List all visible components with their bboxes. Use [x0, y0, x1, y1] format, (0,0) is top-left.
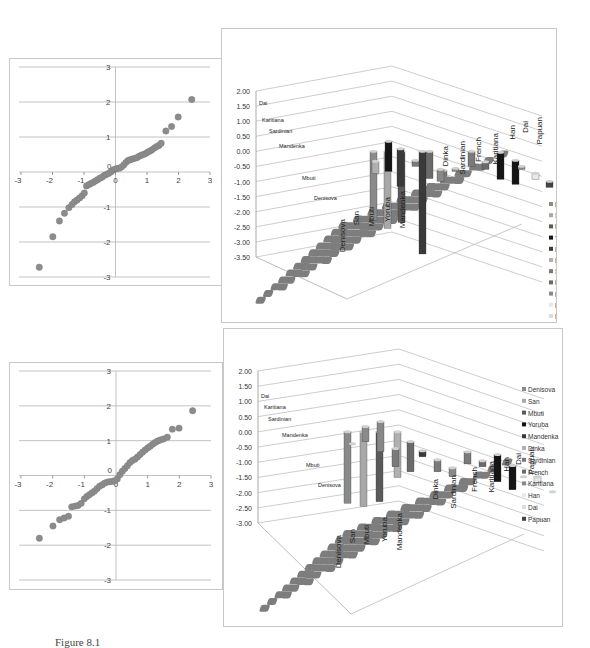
z-tick-label: -1.00: [236, 459, 252, 466]
z-tick-label: 1.00: [236, 118, 250, 125]
y-tick-label: 3: [106, 63, 111, 72]
z-tick-label: -3.50: [234, 254, 250, 261]
legend-label: Han: [555, 302, 556, 309]
legend-swatch: [522, 505, 526, 509]
z-tick-label: 0.00: [236, 148, 250, 155]
x-tick-label: 2: [176, 176, 181, 185]
legend-label: Yoruba: [528, 421, 549, 428]
depth-label: Denisova: [318, 482, 342, 488]
depth-label: Mbuti: [306, 462, 319, 468]
depth-label: Mandenka: [282, 432, 309, 438]
x-category-label: Denisova: [334, 534, 343, 568]
x-tick-label: -2: [46, 176, 54, 185]
x-category-label: Sardinian: [449, 475, 458, 509]
bar3d-panel-bottom: 2.001.501.000.500.00-0.50-1.00-1.50-2.00…: [223, 328, 563, 627]
x-tick-label: -3: [14, 480, 22, 489]
legend-label: Denisova: [555, 201, 556, 208]
z-tick-label: 2.00: [236, 88, 250, 95]
legend-swatch: [522, 387, 526, 391]
category-labels: DenisovaSanMbutiYorubaMandenkaDinkaSardi…: [261, 393, 536, 568]
depth-label: Mbuti: [302, 175, 315, 181]
legend-swatch: [522, 422, 526, 426]
legend-label: Mandenka: [555, 246, 556, 253]
x-category-label: French: [474, 137, 483, 162]
legend-swatch: [522, 411, 526, 415]
z-tick-label: -1.00: [234, 179, 250, 186]
scatter-panel-top: 321-1-2-3-3-2-101230: [9, 58, 222, 286]
y-tick-label: 2: [106, 98, 111, 107]
x-category-label: Mandenka: [395, 512, 404, 550]
x-tick-label: 3: [209, 480, 214, 489]
x-category-label: Han: [502, 457, 511, 472]
z-tick-label: 0.50: [238, 414, 252, 421]
bar3d-panel-top: 2.001.501.000.500.00-0.50-1.00-1.50-2.00…: [221, 28, 557, 323]
x-category-label: San: [348, 529, 357, 543]
depth-label: Sardinian: [268, 416, 291, 422]
legend-label: Dinka: [528, 445, 545, 452]
gridlines: 321-1-2-3-3-2-101230: [14, 367, 213, 585]
x-category-label: Yoruba: [383, 196, 392, 222]
legend-label: Mbuti: [528, 410, 544, 417]
x-category-label: French: [470, 467, 479, 492]
legend-label: Karitiana: [528, 480, 554, 487]
x-category-label: Mbuti: [362, 525, 371, 545]
legend: DenisovaSanMbutiYorubaMandenkaDinkaSardi…: [549, 201, 556, 322]
scatter-plot-bottom: 321-1-2-3-3-2-101230: [10, 363, 222, 589]
legend-swatch: [549, 247, 553, 251]
legend-swatch: [522, 434, 526, 438]
scatter-panel-bottom: 321-1-2-3-3-2-101230: [9, 362, 223, 590]
legend-label: Sardinian: [528, 457, 556, 464]
z-tick-label: 0.00: [238, 429, 252, 436]
legend-label: San: [528, 398, 540, 405]
legend-label: French: [528, 469, 549, 476]
legend-label: Dai: [528, 504, 538, 511]
x-category-label: Dinka: [441, 145, 450, 166]
x-tick-label: 3: [208, 176, 213, 185]
legend-swatch: [549, 213, 553, 217]
x-category-label: Han: [508, 125, 517, 140]
z-tick-label: 1.50: [236, 103, 250, 110]
x-category-label: Sardinian: [458, 141, 467, 175]
z-tick-label: -3.00: [236, 520, 252, 527]
legend-label: Denisova: [528, 386, 555, 393]
x-category-label: Mandenka: [398, 190, 407, 228]
y-tick-label: -3: [104, 576, 112, 585]
legend-swatch: [549, 292, 553, 296]
x-category-label: Karitiana: [487, 460, 496, 492]
legend-swatch: [549, 269, 553, 273]
x-category-label: Dai: [521, 121, 530, 133]
x-category-label: Dai: [514, 453, 523, 465]
z-tick-label: -0.50: [234, 163, 250, 170]
x-category-label: Dinka: [431, 478, 440, 499]
svg-text:0: 0: [108, 466, 113, 475]
depth-label: Karitiana: [262, 117, 285, 123]
z-tick-label: -1.50: [236, 474, 252, 481]
z-tick-label: -2.50: [234, 224, 250, 231]
z-tick-label: -3.00: [234, 239, 250, 246]
legend-swatch: [522, 446, 526, 450]
scatter-plot-top: 321-1-2-3-3-2-101230: [10, 59, 221, 285]
legend-label: French: [555, 279, 556, 286]
legend-label: Mbuti: [555, 223, 556, 230]
legend-swatch: [522, 481, 526, 485]
legend-swatch: [549, 224, 553, 228]
z-tick-label: -2.00: [236, 490, 252, 497]
z-tick-label: -2.50: [236, 505, 252, 512]
x-tick-label: -1: [78, 480, 86, 489]
y-tick-label: -1: [104, 506, 112, 515]
y-tick-label: 2: [107, 402, 112, 411]
x-category-label: San: [352, 211, 361, 225]
y-tick-label: -2: [104, 541, 112, 550]
bar3d-chart-bottom: 2.001.501.000.500.00-0.50-1.00-1.50-2.00…: [224, 329, 562, 626]
legend-label: Dai: [555, 313, 556, 320]
y-tick-label: -3: [103, 273, 111, 282]
z-tick-label: 0.50: [236, 133, 250, 140]
legend-label: Yoruba: [555, 235, 556, 242]
y-tick-label: 3: [107, 367, 112, 376]
depth-label: Dai: [259, 100, 267, 106]
legend-swatch: [522, 399, 526, 403]
z-tick-label: -1.50: [234, 194, 250, 201]
legend-label: Han: [528, 492, 540, 499]
legend-swatch: [522, 470, 526, 474]
legend-swatch: [549, 314, 553, 318]
